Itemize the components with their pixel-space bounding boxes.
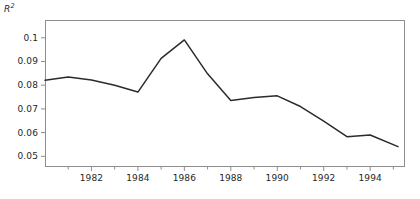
- x-tick-label: 1982: [71, 173, 111, 183]
- chart-container: R2 0.050.060.070.080.090.1 1982198419861…: [0, 0, 420, 199]
- x-tick-label: 1992: [304, 173, 344, 183]
- x-tick-label: 1984: [118, 173, 158, 183]
- x-tick-label: 1986: [164, 173, 204, 183]
- data-line-r2: [45, 40, 398, 147]
- x-axis-tick-marks: [91, 167, 370, 171]
- chart-svg: [0, 0, 420, 199]
- y-tick-label: 0.09: [2, 56, 38, 66]
- y-tick-label: 0.05: [2, 151, 38, 161]
- x-tick-label: 1994: [350, 173, 390, 183]
- y-axis-tick-marks: [41, 38, 45, 157]
- y-tick-label: 0.07: [2, 104, 38, 114]
- x-tick-label: 1990: [257, 173, 297, 183]
- y-tick-label: 0.06: [2, 128, 38, 138]
- y-tick-label: 0.1: [2, 33, 38, 43]
- y-tick-label: 0.08: [2, 80, 38, 90]
- x-tick-label: 1988: [211, 173, 251, 183]
